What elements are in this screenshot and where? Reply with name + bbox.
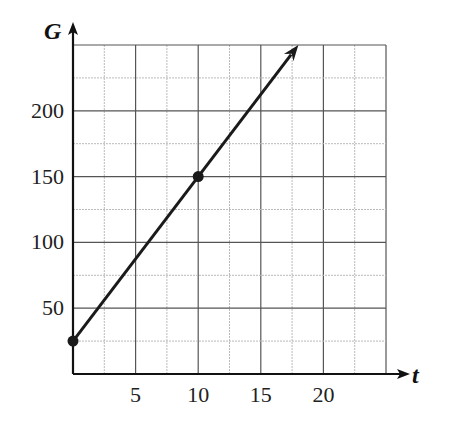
- x-tick-label: 20: [312, 382, 334, 407]
- y-axis-label: G: [44, 18, 62, 44]
- axes: [68, 22, 410, 379]
- x-tick-label: 5: [130, 382, 141, 407]
- data-point: [68, 336, 79, 347]
- y-tick-label: 100: [31, 229, 64, 254]
- data-point: [193, 171, 204, 182]
- data-series: [68, 45, 299, 347]
- data-line: [73, 55, 291, 342]
- y-tick-label: 50: [42, 295, 64, 320]
- y-tick-label: 200: [31, 98, 64, 123]
- x-tick-label: 15: [250, 382, 272, 407]
- x-axis-label: t: [412, 362, 420, 388]
- x-tick-label: 10: [187, 382, 209, 407]
- line-chart: 510152050100150200 t G: [0, 0, 454, 426]
- y-tick-label: 150: [31, 164, 64, 189]
- grid: [73, 45, 386, 374]
